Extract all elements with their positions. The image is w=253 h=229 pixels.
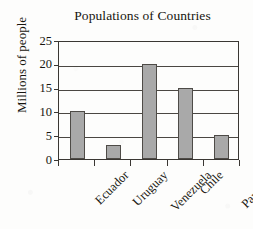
plot-area xyxy=(58,41,239,160)
x-tick-mark-0 xyxy=(58,160,59,166)
x-tick-mark-3 xyxy=(167,160,168,166)
y-tick-label-15: 15 xyxy=(28,82,52,95)
bar-ecuador xyxy=(70,111,85,159)
chart-title: Populations of Countries xyxy=(40,8,245,24)
x-tick-mark-4 xyxy=(203,160,204,166)
x-tick-mark-2 xyxy=(130,160,131,166)
x-axis-label-uruguay: Uruguay xyxy=(129,168,171,210)
bar-chart-figure: Populations of Countries Millions of peo… xyxy=(0,0,253,229)
y-tick-label-10: 10 xyxy=(28,106,52,119)
bar-chile xyxy=(178,88,193,159)
y-tick-label-0: 0 xyxy=(28,154,52,167)
x-tick-mark-1 xyxy=(94,160,95,166)
y-tick-label-5: 5 xyxy=(28,130,52,143)
y-tick-label-25: 25 xyxy=(28,35,52,48)
bar-paraguay xyxy=(214,135,229,159)
bar-uruguay xyxy=(106,145,121,159)
x-axis-label-paraguay: Paraguay xyxy=(239,168,253,211)
x-axis-label-ecuador: Ecuador xyxy=(93,168,133,208)
x-tick-mark-5 xyxy=(239,160,240,166)
bar-venezuela xyxy=(142,64,157,159)
y-tick-label-20: 20 xyxy=(28,58,52,71)
